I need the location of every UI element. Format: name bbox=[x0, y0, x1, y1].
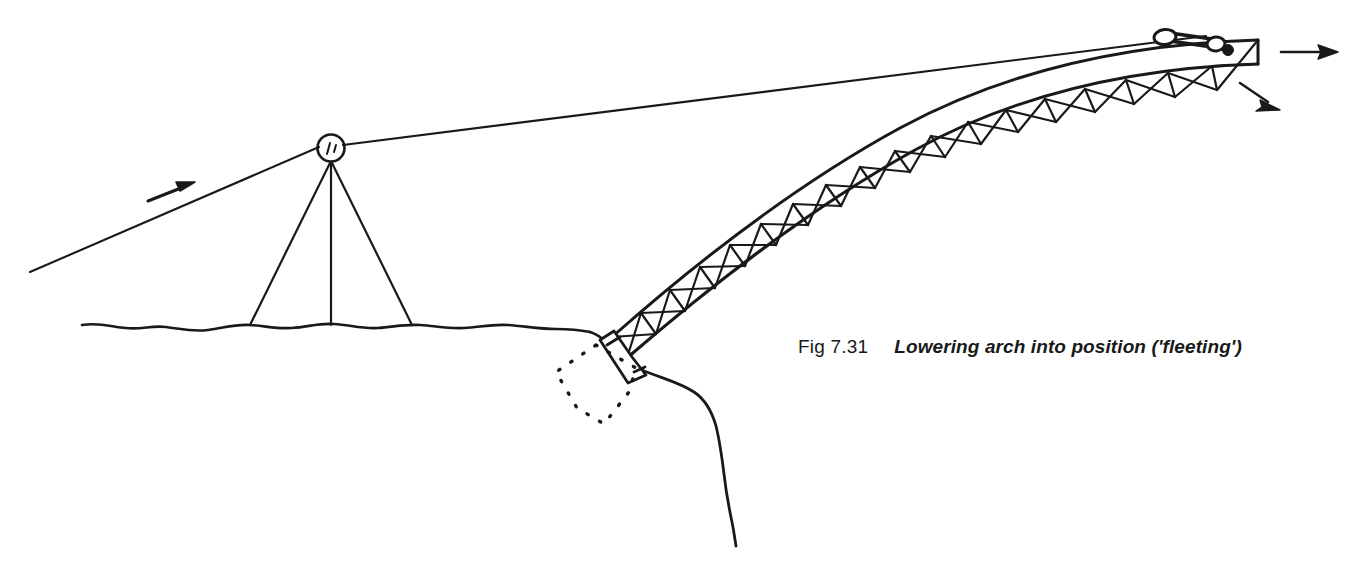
fleeting-block-attachment bbox=[1223, 45, 1234, 56]
arch-lowering-diagram bbox=[0, 0, 1357, 562]
tower-right-leg bbox=[331, 161, 412, 325]
rope-direction-arrow bbox=[148, 182, 195, 201]
figure-number: Fig 7.31 bbox=[798, 336, 868, 357]
hauling-rope-main-run bbox=[343, 36, 1206, 145]
ground-line bbox=[82, 324, 590, 332]
hauling-rope-backstay bbox=[30, 147, 319, 272]
fleeting-sheave-left-icon bbox=[1153, 28, 1176, 45]
arch-foot-shoe bbox=[600, 331, 646, 383]
cliff-face bbox=[590, 332, 736, 546]
fleeting-block bbox=[1153, 28, 1233, 55]
arch-truss-web bbox=[612, 40, 1258, 358]
tower-left-leg bbox=[250, 161, 331, 325]
arch-top-chord bbox=[612, 40, 1258, 337]
horizontal-travel-arrow bbox=[1281, 45, 1338, 59]
head-sheave-icon bbox=[318, 135, 345, 162]
figure-caption: Fig 7.31Lowering arch into position ('fl… bbox=[798, 336, 1242, 358]
figure-root: Fig 7.31Lowering arch into position ('fl… bbox=[0, 0, 1357, 562]
figure-title: Lowering arch into position ('fleeting') bbox=[894, 336, 1242, 357]
lowering-direction-arrow bbox=[1240, 83, 1280, 111]
